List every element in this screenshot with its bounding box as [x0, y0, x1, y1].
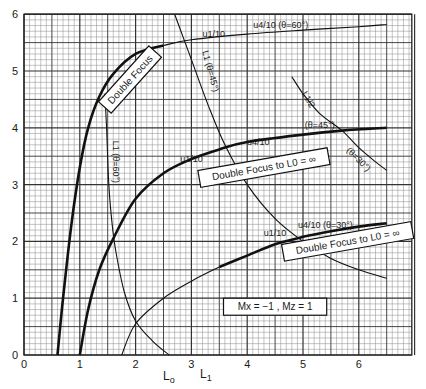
annotation-text: u1/10 [180, 154, 203, 164]
y-tick-label: 5 [12, 65, 18, 77]
annotation-label: (θ=45°) [305, 120, 335, 130]
annotation-label: u4/10 (θ=30°) [298, 220, 353, 230]
annotation-text: (θ=45°) [305, 120, 335, 130]
annotation-label: u4/10 (θ=60°) [253, 20, 308, 30]
x-tick-label: 2 [133, 358, 139, 370]
x-tick-label: 1 [77, 358, 83, 370]
x-tick-label: 0 [21, 358, 27, 370]
annotation-label: u4/10 [247, 137, 270, 147]
plot-svg: 01234560123456 Double FocusDouble Focus … [0, 0, 426, 389]
y-tick-label: 6 [12, 8, 18, 20]
x-tick-label: 4 [244, 358, 250, 370]
annotation-label: u1/10 [202, 29, 225, 39]
y-tick-label: 0 [12, 349, 18, 361]
svg-text:Lo: Lo [163, 369, 175, 385]
annotation-text: u4/10 [247, 137, 270, 147]
annotation-label: u1/10 [180, 154, 203, 164]
curve-u1-10-u4-10-30-thin [122, 267, 220, 355]
annotation-box: Mx = −1 , Mz = 1 [224, 298, 327, 315]
svg-text:L1: L1 [200, 367, 212, 383]
annotation-text: Mx = −1 , Mz = 1 [238, 301, 313, 312]
x-tick-label: 6 [356, 358, 362, 370]
annotation-text: u4/10 (θ=30°) [298, 220, 353, 230]
annotation-text: L1 (θ=60°) [111, 141, 121, 183]
annotation-label: L1 (θ=60°) [111, 141, 121, 183]
x-tick-label: 5 [300, 358, 306, 370]
y-tick-label: 3 [12, 179, 18, 191]
annotation-text: u1/10 [202, 29, 225, 39]
annotation-text: u4/10 (θ=60°) [253, 20, 308, 30]
y-tick-label: 4 [12, 122, 18, 134]
chart-container: 01234560123456 Double FocusDouble Focus … [0, 0, 426, 389]
annotation-text: u1/10 [264, 228, 287, 238]
y-tick-label: 2 [12, 235, 18, 247]
x-tick-label: 3 [188, 358, 194, 370]
y-tick-label: 1 [12, 292, 18, 304]
annotation-label: u1/10 [264, 228, 287, 238]
